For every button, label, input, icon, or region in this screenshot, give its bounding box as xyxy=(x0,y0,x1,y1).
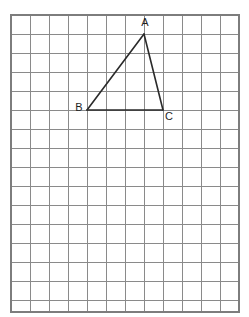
figure-canvas: ABC xyxy=(0,0,249,317)
vertex-label-a: A xyxy=(141,16,149,28)
vertex-label-c: C xyxy=(165,110,173,122)
triangle-grid-figure: ABC xyxy=(0,0,249,317)
vertex-label-b: B xyxy=(75,101,82,113)
